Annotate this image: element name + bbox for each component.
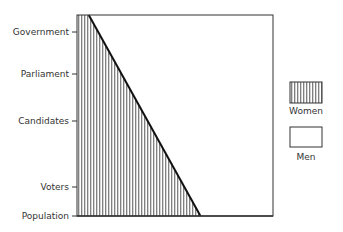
legend-swatch-men	[290, 127, 322, 147]
legend-label-men: Men	[296, 152, 315, 162]
y-tick-label-government: Government	[13, 27, 70, 37]
y-tick-label-population: Population	[22, 211, 69, 221]
women-men-representation-chart: GovernmentParliamentCandidatesVotersPopu…	[0, 0, 343, 232]
y-tick-label-voters: Voters	[41, 182, 70, 192]
y-tick-label-parliament: Parliament	[21, 69, 70, 79]
legend-label-women: Women	[289, 106, 323, 116]
y-tick-label-candidates: Candidates	[18, 116, 69, 126]
legend-swatch-women	[290, 82, 322, 103]
